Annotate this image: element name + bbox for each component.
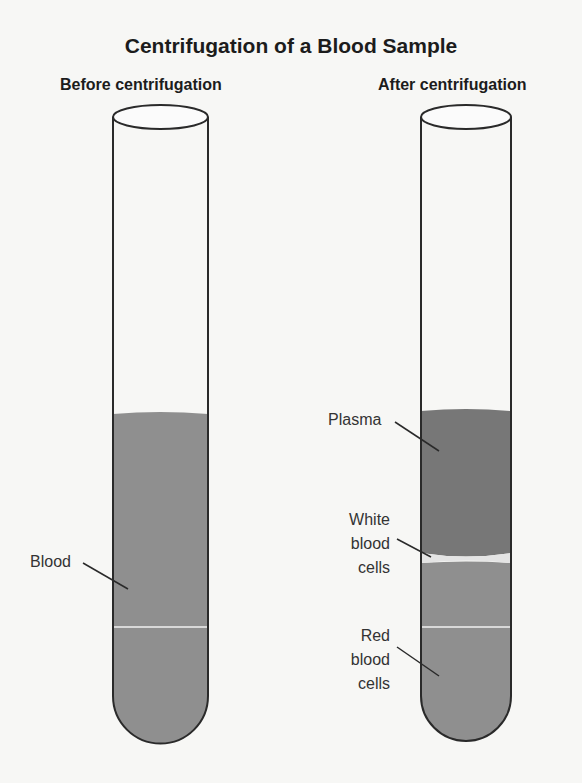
tube-after (395, 105, 511, 741)
reflection-line (113, 626, 208, 628)
tube-opening (421, 105, 511, 129)
plasma-label: Plasma (328, 408, 381, 432)
tube-opening (113, 105, 208, 129)
wbc-label: White blood cells (340, 508, 390, 580)
reflection-line (421, 626, 511, 628)
tube-before (83, 105, 208, 744)
plasma-fill (421, 409, 511, 557)
tubes-illustration (0, 0, 582, 783)
red-cells-fill (421, 562, 511, 742)
blood-label: Blood (30, 550, 71, 574)
blood-fill (113, 412, 208, 744)
rbc-label: Red blood cells (340, 624, 390, 696)
